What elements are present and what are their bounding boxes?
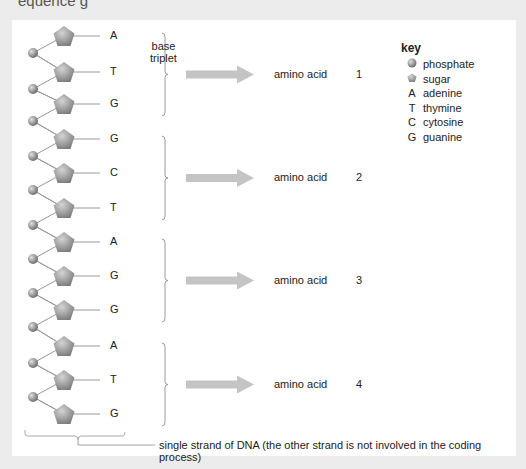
sugar-icon xyxy=(54,94,75,114)
base-label: G xyxy=(110,303,119,315)
amino-acid-number: 3 xyxy=(356,274,362,286)
key-item-adenine: Aadenine xyxy=(401,86,474,101)
key-label: cytosine xyxy=(423,116,463,128)
base-label: G xyxy=(110,269,119,281)
base-label: G xyxy=(110,97,119,109)
sugar-icon xyxy=(54,129,75,149)
key-symbol: T xyxy=(401,102,423,114)
key-item-thymine: Tthymine xyxy=(401,101,474,116)
key-legend: key phosphate sugar Aadenine Tthymine Cc… xyxy=(401,41,474,144)
sugar-icon xyxy=(54,336,75,356)
key-label: adenine xyxy=(423,87,462,99)
base-label: A xyxy=(110,29,117,41)
sugar-icon xyxy=(54,62,75,82)
base-label: A xyxy=(110,235,117,247)
sugar-icon xyxy=(401,72,423,86)
key-title: key xyxy=(401,41,474,55)
amino-acid-number: 2 xyxy=(356,171,362,183)
amino-acid-label: amino acid xyxy=(274,378,327,390)
base-label: C xyxy=(110,166,118,178)
base-label: T xyxy=(110,373,117,385)
key-item-phosphate: phosphate xyxy=(401,57,474,72)
codon-arrows xyxy=(186,66,254,394)
strand-bracket xyxy=(25,430,125,440)
base-label: G xyxy=(110,407,119,419)
phosphate-icon xyxy=(28,288,38,298)
sugar-icon xyxy=(54,26,75,46)
phosphate-icon xyxy=(28,220,38,230)
sugar-icon xyxy=(54,163,75,183)
sugar-icon xyxy=(54,300,75,320)
caption-leader-line xyxy=(78,440,155,445)
base-label: A xyxy=(110,339,117,351)
key-item-guanine: Gguanine xyxy=(401,130,474,145)
key-label: thymine xyxy=(423,102,462,114)
phosphate-icon xyxy=(28,392,38,402)
key-symbol: C xyxy=(401,116,423,128)
key-label: phosphate xyxy=(423,58,474,70)
sugar-icon xyxy=(54,232,75,252)
key-symbol: G xyxy=(401,131,423,143)
sugar-icon xyxy=(54,370,75,390)
phosphate-icon xyxy=(28,48,38,58)
phosphate-icon xyxy=(28,116,38,126)
strand-caption: single strand of DNA (the other strand i… xyxy=(159,439,526,463)
codon-braces xyxy=(162,33,168,426)
key-item-sugar: sugar xyxy=(401,72,474,87)
sugar-icon xyxy=(54,404,75,424)
strand-backbone xyxy=(28,26,100,424)
base-triplet-label: base triplet xyxy=(150,40,177,64)
phosphate-icon xyxy=(28,322,38,332)
amino-acid-label: amino acid xyxy=(274,171,327,183)
key-label: guanine xyxy=(423,131,462,143)
amino-acid-label: amino acid xyxy=(274,68,327,80)
base-label: T xyxy=(110,201,117,213)
key-symbol: A xyxy=(401,87,423,99)
phosphate-icon xyxy=(28,151,38,161)
phosphate-icon xyxy=(28,358,38,368)
amino-acid-number: 4 xyxy=(356,378,362,390)
sugar-icon xyxy=(54,266,75,286)
sugar-icon xyxy=(54,198,75,218)
base-label: T xyxy=(110,65,117,77)
phosphate-icon xyxy=(28,84,38,94)
base-label: G xyxy=(110,132,119,144)
amino-acid-number: 1 xyxy=(356,68,362,80)
phosphate-icon xyxy=(28,254,38,264)
key-label: sugar xyxy=(423,73,451,85)
phosphate-icon xyxy=(28,185,38,195)
phosphate-icon xyxy=(401,57,423,71)
key-item-cytosine: Ccytosine xyxy=(401,115,474,130)
amino-acid-label: amino acid xyxy=(274,274,327,286)
